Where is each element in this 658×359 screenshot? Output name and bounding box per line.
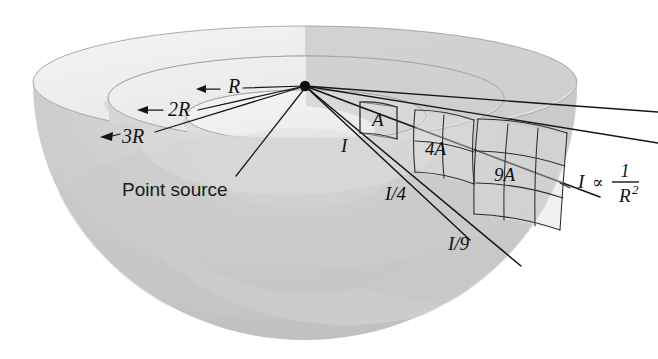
label-3R: 3R [121, 125, 144, 147]
label-R: R [227, 75, 240, 97]
figure-canvas: R 2R 3R Point source A 4A 9A I I/4 I/9 I… [0, 0, 658, 359]
label-intensity-I9: I/9 [447, 233, 470, 254]
label-2R: 2R [168, 98, 190, 120]
point-source-dot [300, 81, 310, 91]
relation-denominator: R [618, 185, 631, 206]
label-area-4A: 4A [425, 138, 447, 159]
patch-9A [474, 119, 570, 230]
inverse-square-relation: I ∝ 1 R 2 [577, 161, 639, 206]
label-intensity-I4: I/4 [384, 183, 407, 204]
relation-denominator-exponent: 2 [632, 182, 639, 197]
relation-operator: ∝ [592, 173, 604, 192]
relation-numerator: 1 [621, 161, 630, 181]
relation-lhs: I [577, 171, 586, 192]
label-point-source: Point source [122, 179, 228, 200]
inverse-square-law-figure: R 2R 3R Point source A 4A 9A I I/4 I/9 I… [0, 0, 658, 359]
label-area-9A: 9A [494, 164, 516, 185]
patch-9A-face [474, 119, 567, 230]
label-area-A: A [370, 109, 384, 130]
